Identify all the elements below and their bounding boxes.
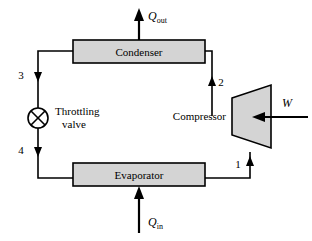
pipe-condenser-to-valve (38, 51, 73, 108)
flow-arrow-state-2 (208, 76, 216, 86)
flow-arrow-state-3 (34, 72, 42, 82)
pipe-evaporator-to-compressor (205, 152, 250, 178)
condenser-label: Condenser (115, 46, 162, 58)
refrigeration-cycle-diagram: Condenser Evaporator Throttling valve Co… (0, 0, 312, 241)
heat-in-symbol: Q (148, 215, 157, 229)
throttling-valve-label-line1: Throttling (55, 105, 100, 117)
state-point-label-3: 3 (18, 69, 24, 81)
flow-arrow-state-1 (246, 156, 254, 166)
evaporator-component: Evaporator (73, 163, 205, 186)
heat-out-symbol: Q (148, 9, 157, 23)
state-point-label-2: 2 (218, 76, 224, 88)
heat-in-label: Qin (148, 215, 163, 231)
throttling-valve-component: Throttling valve (28, 105, 100, 130)
heat-out-flow: Qout (134, 8, 168, 40)
heat-out-label: Qout (148, 9, 168, 25)
throttling-valve-label-line2: valve (62, 118, 86, 130)
condenser-component: Condenser (73, 40, 205, 63)
evaporator-label: Evaporator (115, 169, 164, 181)
flow-arrow-state-4 (34, 147, 42, 157)
compressor-label: Compressor (173, 110, 227, 122)
work-in-symbol: W (282, 96, 293, 110)
heat-in-arrowhead (134, 186, 144, 199)
heat-out-arrowhead (134, 8, 144, 21)
state-point-label-4: 4 (18, 144, 24, 156)
heat-in-subscript: in (157, 222, 163, 231)
pipe-valve-to-evaporator (38, 128, 73, 178)
heat-in-flow: Qin (134, 186, 163, 233)
heat-out-subscript: out (157, 16, 168, 25)
diagram-canvas: Condenser Evaporator Throttling valve Co… (0, 0, 312, 241)
state-point-label-1: 1 (235, 158, 241, 170)
work-in-label: W (282, 96, 293, 110)
